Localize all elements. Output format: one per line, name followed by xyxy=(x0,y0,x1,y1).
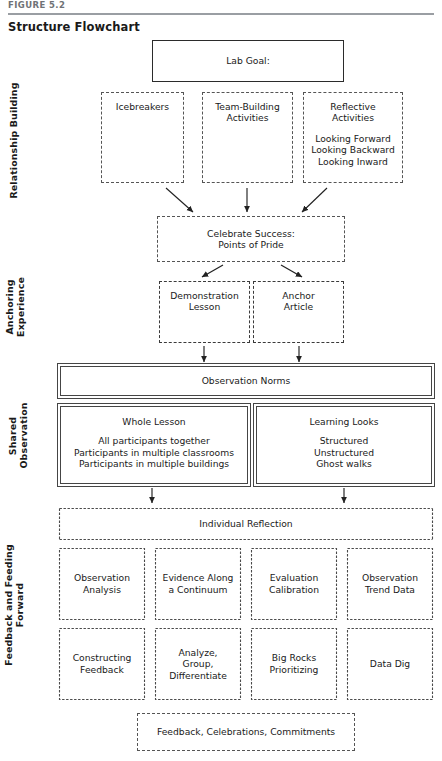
node-icebreakers-label: Icebreakers xyxy=(116,101,169,112)
node-feedback-celebrations-commitments[interactable]: Feedback, Celebrations, Commitments xyxy=(137,713,355,751)
node-observation-norms[interactable]: Observation Norms xyxy=(60,366,432,396)
band-label-feedback-feeding-forward: Feedback and Feeding Forward xyxy=(3,525,25,685)
node-anchor-article-label: Anchor Article xyxy=(282,290,314,313)
node-celebrate-success[interactable]: Celebrate Success: Points of Pride xyxy=(157,216,345,262)
node-whole-lesson-sub: All participants together Participants i… xyxy=(74,435,234,469)
flowchart-figure: FIGURE 5.2 Structure Flowchart Relations… xyxy=(0,0,442,761)
node-big-rocks-prioritizing[interactable]: Big Rocks Prioritizing xyxy=(250,627,338,701)
node-evidence-continuum-label: Evidence Along a Continuum xyxy=(163,572,234,595)
node-demonstration-lesson[interactable]: Demonstration Lesson xyxy=(159,281,250,343)
node-team-building[interactable]: Team-Building Activities xyxy=(202,92,293,183)
node-feedback-celebrations-commitments-label: Feedback, Celebrations, Commitments xyxy=(157,726,335,737)
node-analyze-group-differentiate-label: Analyze, Group, Differentiate xyxy=(169,647,227,682)
node-data-dig-label: Data Dig xyxy=(370,658,410,670)
band-label-relationship-building: Relationship Building xyxy=(8,76,19,206)
node-team-building-label: Team-Building Activities xyxy=(215,101,280,124)
node-demonstration-lesson-label: Demonstration Lesson xyxy=(170,290,239,313)
node-observation-trend-data-label: Observation Trend Data xyxy=(362,572,418,595)
node-learning-looks[interactable]: Learning Looks Structured Unstructured G… xyxy=(256,406,432,484)
node-icebreakers[interactable]: Icebreakers xyxy=(101,92,184,183)
page-title: Structure Flowchart xyxy=(8,20,140,34)
node-anchor-article[interactable]: Anchor Article xyxy=(253,281,344,343)
node-observation-analysis[interactable]: Observation Analysis xyxy=(58,547,146,621)
band-label-anchoring-experience: Anchoring Experience xyxy=(4,272,26,342)
node-celebrate-success-label: Celebrate Success: Points of Pride xyxy=(207,228,295,251)
header-rule xyxy=(8,13,434,15)
figure-label: FIGURE 5.2 xyxy=(8,0,65,10)
node-reflective-activities[interactable]: Reflective Activities Looking Forward Lo… xyxy=(303,92,403,183)
node-observation-analysis-label: Observation Analysis xyxy=(74,572,130,595)
node-lab-goal[interactable]: Lab Goal: xyxy=(152,40,344,82)
node-reflective-activities-label: Reflective Activities xyxy=(330,101,375,124)
node-big-rocks-prioritizing-label: Big Rocks Prioritizing xyxy=(270,652,319,675)
node-data-dig[interactable]: Data Dig xyxy=(346,627,434,701)
node-evaluation-calibration-label: Evaluation Calibration xyxy=(269,572,319,595)
node-learning-looks-sub: Structured Unstructured Ghost walks xyxy=(314,435,374,469)
node-analyze-group-differentiate[interactable]: Analyze, Group, Differentiate xyxy=(154,627,242,701)
node-whole-lesson-label: Whole Lesson xyxy=(122,416,185,427)
node-individual-reflection[interactable]: Individual Reflection xyxy=(58,507,434,541)
node-reflective-activities-sub: Looking Forward Looking Backward Looking… xyxy=(311,133,395,167)
node-constructing-feedback-label: Constructing Feedback xyxy=(73,652,132,675)
node-observation-trend-data[interactable]: Observation Trend Data xyxy=(346,547,434,621)
node-lab-goal-label: Lab Goal: xyxy=(226,55,270,66)
band-label-shared-observation: Shared Observation xyxy=(7,404,29,469)
node-individual-reflection-label: Individual Reflection xyxy=(199,518,292,530)
node-evaluation-calibration[interactable]: Evaluation Calibration xyxy=(250,547,338,621)
node-whole-lesson[interactable]: Whole Lesson All participants together P… xyxy=(60,406,248,484)
node-observation-norms-label: Observation Norms xyxy=(202,375,291,386)
node-evidence-continuum[interactable]: Evidence Along a Continuum xyxy=(154,547,242,621)
node-constructing-feedback[interactable]: Constructing Feedback xyxy=(58,627,146,701)
node-learning-looks-label: Learning Looks xyxy=(309,416,378,427)
